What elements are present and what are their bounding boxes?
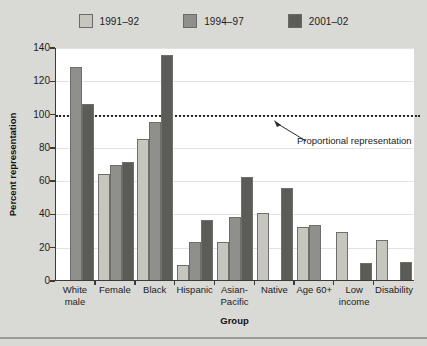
bar[interactable] (336, 232, 348, 280)
bar-group (374, 48, 414, 280)
bar[interactable] (70, 67, 82, 280)
legend-item-2001-02: 2001–02 (288, 14, 349, 28)
y-axis: 020406080100120140 (0, 48, 55, 281)
bottom-divider (0, 337, 427, 339)
legend-item-1991-92: 1991–92 (79, 14, 140, 28)
legend-swatch-2001-02 (288, 14, 302, 28)
bar[interactable] (257, 213, 269, 280)
x-axis-group-label: Disability (374, 284, 414, 307)
legend-label-1994-97: 1994–97 (204, 16, 244, 27)
x-axis-group-label: Black (135, 284, 175, 307)
x-axis-title: Group (55, 315, 414, 326)
bar[interactable] (110, 165, 122, 280)
bar[interactable] (217, 242, 229, 280)
legend-label-1991-92: 1991–92 (100, 16, 140, 27)
bar-group (215, 48, 255, 280)
x-axis-group-label: Whitemale (55, 284, 95, 307)
bar[interactable] (281, 188, 293, 280)
bar-group (175, 48, 215, 280)
x-axis-group-label: Age 60+ (294, 284, 334, 307)
annotation-proportional-representation: Proportional representation (297, 135, 412, 146)
bar-group (136, 48, 176, 280)
legend-swatch-1991-92 (79, 14, 93, 28)
bar[interactable] (189, 242, 201, 280)
bar[interactable] (161, 55, 173, 280)
bar-group (56, 48, 96, 280)
bar[interactable] (400, 262, 412, 280)
bar[interactable] (122, 162, 134, 280)
bar[interactable] (98, 174, 110, 281)
bar[interactable] (297, 227, 309, 280)
bar-group (96, 48, 136, 280)
bar[interactable] (360, 263, 372, 280)
bar-group (334, 48, 374, 280)
bar[interactable] (137, 139, 149, 280)
legend-item-1994-97: 1994–97 (183, 14, 244, 28)
bar-group (255, 48, 295, 280)
chart-legend: 1991–92 1994–97 2001–02 (0, 14, 427, 28)
bar-group (295, 48, 335, 280)
bar[interactable] (229, 217, 241, 280)
bar[interactable] (309, 225, 321, 280)
bars-layer (56, 48, 414, 280)
x-axis-group-label: Hispanic (175, 284, 215, 307)
legend-swatch-1994-97 (183, 14, 197, 28)
bar[interactable] (241, 177, 253, 280)
bar[interactable] (376, 240, 388, 280)
x-axis-group-label: Native (254, 284, 294, 307)
chart-page: 1991–92 1994–97 2001–02 Percent represen… (0, 0, 427, 346)
plot-area (55, 48, 414, 281)
x-axis-group-label: Lowincome (334, 284, 374, 307)
legend-label-2001-02: 2001–02 (309, 16, 349, 27)
bar[interactable] (149, 122, 161, 280)
x-axis-group-label: Female (95, 284, 135, 307)
bar[interactable] (201, 220, 213, 280)
bar[interactable] (177, 265, 189, 280)
x-axis-group-label: Asian-Pacific (215, 284, 255, 307)
bar[interactable] (82, 104, 94, 280)
x-axis-labels: WhitemaleFemaleBlackHispanicAsian-Pacifi… (55, 284, 414, 307)
